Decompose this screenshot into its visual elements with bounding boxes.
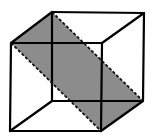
- bottom-left-depth-edge: [10, 101, 52, 131]
- shaded-cross-section-plane: [11, 12, 143, 131]
- cube-diagram: [0, 0, 155, 139]
- back-right-edge: [143, 13, 144, 101]
- front-left-edge: [10, 43, 11, 131]
- back-top-edge: [52, 12, 144, 13]
- front-right-edge: [101, 43, 102, 131]
- top-right-depth-edge: [102, 13, 144, 43]
